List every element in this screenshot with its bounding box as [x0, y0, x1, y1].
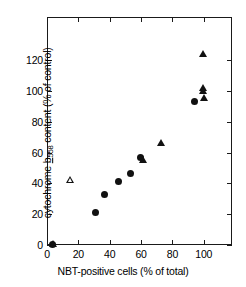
data-point-circle-filled: [101, 191, 108, 198]
x-tick-mark: [141, 240, 142, 245]
y-tick-label: 40: [9, 178, 43, 189]
y-tick-label: 60: [9, 148, 43, 159]
x-tick-label: 60: [126, 249, 156, 260]
y-tick-mark-right: [227, 60, 232, 61]
x-tick-mark: [110, 240, 111, 245]
y-tick-label: 120: [9, 55, 43, 66]
data-point-triangle-filled: [200, 94, 208, 101]
y-tick-mark-right: [227, 122, 232, 123]
x-tick-mark-top: [78, 17, 79, 22]
x-tick-mark-top: [110, 17, 111, 22]
y-tick-mark-right: [227, 214, 232, 215]
data-point-circle-filled: [127, 170, 134, 177]
x-tick-mark: [172, 240, 173, 245]
y-axis-title-subscript: 558: [46, 146, 55, 158]
x-tick-mark: [78, 240, 79, 245]
x-tick-mark-top: [172, 17, 173, 22]
y-axis-title-prefix: cytochrome: [41, 163, 53, 218]
y-axis-title-symbol: b: [41, 158, 53, 164]
data-point-triangle-filled: [157, 139, 165, 146]
y-axis-title: cytochrome b558 content (% of control): [41, 13, 57, 253]
y-tick-label: 20: [9, 209, 43, 220]
data-point-triangle-filled: [139, 156, 147, 163]
data-point-triangle-open: [66, 176, 74, 183]
y-tick-mark-right: [227, 183, 232, 184]
x-tick-label: 40: [95, 249, 125, 260]
x-tick-label: 20: [63, 249, 93, 260]
y-tick-mark-right: [227, 153, 232, 154]
x-tick-mark-top: [204, 17, 205, 22]
x-tick-label: 100: [189, 249, 219, 260]
y-tick-label: 80: [9, 117, 43, 128]
x-axis-title: NBT-positive cells (% of total): [0, 265, 246, 277]
data-point-triangle-filled: [199, 50, 207, 57]
x-tick-mark: [204, 240, 205, 245]
data-point-triangle-filled: [199, 87, 207, 94]
y-tick-label: 100: [9, 86, 43, 97]
y-tick-mark-right: [227, 245, 232, 246]
scatter-plot-figure: 020406080100120 020406080100 cytochrome …: [0, 0, 246, 287]
y-axis-title-suffix: content (% of control): [41, 47, 53, 145]
x-tick-mark-top: [141, 17, 142, 22]
y-tick-mark-right: [227, 91, 232, 92]
x-tick-label: 80: [157, 249, 187, 260]
